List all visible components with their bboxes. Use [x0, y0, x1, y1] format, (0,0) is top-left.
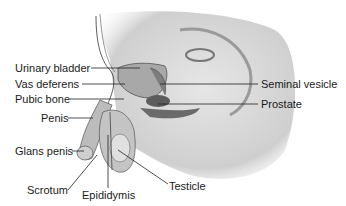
label-vas-deferens: Vas deferens — [15, 78, 79, 90]
label-scrotum: Scrotum — [27, 184, 68, 196]
label-pubic-bone: Pubic bone — [15, 93, 70, 105]
label-testicle: Testicle — [169, 180, 206, 192]
label-urinary-bladder: Urinary bladder — [15, 62, 90, 74]
label-seminal-vesicle: Seminal vesicle — [261, 78, 337, 90]
label-penis: Penis — [41, 112, 69, 124]
label-epididymis: Epididymis — [82, 189, 135, 201]
label-prostate: Prostate — [261, 98, 302, 110]
label-glans-penis: Glans penis — [15, 145, 73, 157]
